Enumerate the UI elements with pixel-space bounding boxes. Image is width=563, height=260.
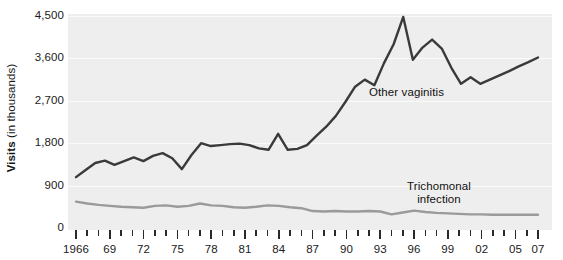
x-axis-tick-label: 75 xyxy=(171,243,184,255)
x-axis-minor-tick xyxy=(98,230,100,236)
x-axis-minor-tick xyxy=(526,230,528,236)
x-axis-tick-label: 99 xyxy=(441,243,454,255)
x-axis-minor-tick xyxy=(165,230,167,236)
x-axis-tick-label: 96 xyxy=(408,243,421,255)
x-axis-minor-tick xyxy=(132,230,134,236)
x-axis-minor-tick xyxy=(301,230,303,236)
x-axis-major-tick xyxy=(379,230,381,239)
x-axis-tick-label: 1966 xyxy=(63,243,89,255)
x-axis-major-tick xyxy=(346,230,348,239)
x-axis-major-tick xyxy=(109,230,111,239)
trichomonal-label: Trichomonal infection xyxy=(393,180,485,206)
x-axis-minor-tick xyxy=(222,230,224,236)
x-axis-minor-tick xyxy=(188,230,190,236)
x-axis-major-tick xyxy=(447,230,449,239)
x-axis-tick-label: 07 xyxy=(532,243,545,255)
x-axis-minor-tick xyxy=(425,230,427,236)
x-axis-minor-tick xyxy=(503,230,505,236)
x-axis-tick-label: 90 xyxy=(340,243,353,255)
x-axis-minor-tick xyxy=(289,230,291,236)
series-line xyxy=(76,17,538,177)
x-axis-minor-tick xyxy=(267,230,269,236)
x-axis-tick-label: 81 xyxy=(239,243,252,255)
x-axis-tick-label: 72 xyxy=(137,243,150,255)
x-axis-ticks xyxy=(68,230,552,242)
x-axis-minor-tick xyxy=(357,230,359,236)
x-axis-tick-label: 84 xyxy=(272,243,285,255)
y-axis-tick-labels: 4,5003,6002,7001,8009000 xyxy=(16,0,64,235)
y-axis-tick-label: 3,600 xyxy=(20,52,64,63)
x-axis-major-tick xyxy=(244,230,246,239)
y-axis-tick-label: 0 xyxy=(20,222,64,233)
x-axis-minor-tick xyxy=(120,230,122,236)
x-axis-tick-label: 05 xyxy=(509,243,522,255)
x-axis-minor-tick xyxy=(334,230,336,236)
x-axis-major-tick xyxy=(481,230,483,239)
y-axis-tick-label: 900 xyxy=(20,180,64,191)
trichomonal-label-line1: Trichomonal xyxy=(393,180,485,193)
x-axis-tick-label: 93 xyxy=(374,243,387,255)
x-axis-minor-tick xyxy=(492,230,494,236)
x-axis-tick-labels: 19666972757881848790939699020507 xyxy=(0,243,563,260)
x-axis-major-tick xyxy=(515,230,517,239)
y-axis-tick-label: 2,700 xyxy=(20,95,64,106)
x-axis-minor-tick xyxy=(154,230,156,236)
x-axis-major-tick xyxy=(278,230,280,239)
x-axis-minor-tick xyxy=(233,230,235,236)
x-axis-major-tick xyxy=(210,230,212,239)
x-axis-major-tick xyxy=(143,230,145,239)
plot-area: Other vaginitis Trichomonal infection xyxy=(68,14,552,230)
x-axis-major-tick xyxy=(312,230,314,239)
x-axis-major-tick xyxy=(177,230,179,239)
x-axis-minor-tick xyxy=(323,230,325,236)
x-axis-tick-label: 78 xyxy=(205,243,218,255)
x-axis-major-tick xyxy=(537,230,539,239)
x-axis-minor-tick xyxy=(458,230,460,236)
x-axis-minor-tick xyxy=(470,230,472,236)
x-axis-minor-tick xyxy=(391,230,393,236)
x-axis-minor-tick xyxy=(255,230,257,236)
x-axis-tick-label: 87 xyxy=(306,243,319,255)
chart-figure: Visits (in thousands) 4,5003,6002,7001,8… xyxy=(0,0,563,260)
other-vaginitis-label: Other vaginitis xyxy=(369,86,444,98)
x-axis-major-tick xyxy=(413,230,415,239)
x-axis-minor-tick xyxy=(86,230,88,236)
y-axis-tick-label: 4,500 xyxy=(20,10,64,21)
x-axis-tick-label: 69 xyxy=(103,243,116,255)
trichomonal-label-line2: infection xyxy=(393,193,485,206)
x-axis-major-tick xyxy=(75,230,77,239)
x-axis-minor-tick xyxy=(199,230,201,236)
y-axis-tick-label: 1,800 xyxy=(20,137,64,148)
x-axis-tick-label: 02 xyxy=(475,243,488,255)
x-axis-minor-tick xyxy=(368,230,370,236)
x-axis-minor-tick xyxy=(436,230,438,236)
x-axis-minor-tick xyxy=(402,230,404,236)
